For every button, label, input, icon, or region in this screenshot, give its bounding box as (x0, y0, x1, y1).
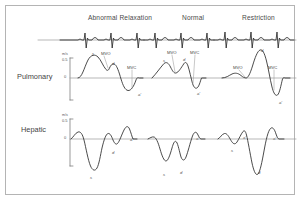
figure-root: Abnormal Relaxation Normal Restriction P… (0, 0, 302, 202)
label-pul-n-ap: a' (197, 91, 200, 96)
hepatic-axis-tick-zero: 0 (64, 135, 66, 140)
label-pul-r-mvo: MVO (233, 65, 243, 70)
label-pul-ar-mvc: MVC (127, 65, 136, 70)
pulmonary-axis-unit: m/s (62, 52, 68, 56)
label-pul-ar-mvo: MVO (101, 51, 111, 56)
hepatic-axis-tick-top: 0.5 (62, 118, 68, 123)
label-hep-ar-s: s (90, 175, 92, 180)
label-hep-n-s: s (163, 172, 165, 177)
label-hep-r-d: d (258, 170, 260, 175)
label-hep-r-ap1: a' (243, 135, 246, 140)
label-hep-ar-d: d (112, 150, 114, 155)
label-pul-r-ap: a' (279, 100, 282, 105)
pulmonary-axis-tick-zero: 0 (64, 74, 66, 79)
label-pul-n-d: d (183, 57, 185, 62)
label-hep-r-s: s (231, 148, 233, 153)
label-pul-n-mvo: MVO (167, 50, 177, 55)
label-pul-r-d: d (261, 48, 263, 53)
label-pul-n-mvc: MVC (190, 50, 199, 55)
column-header-normal: Normal (182, 14, 204, 21)
label-pul-r-mvc: MVC (268, 65, 277, 70)
row-label-pulmonary: Pulmonary (17, 72, 52, 81)
label-hep-ar-ap: a' (130, 137, 133, 142)
label-pul-n-s: s (163, 58, 165, 63)
label-pul-ar-s: s (92, 51, 94, 56)
label-hep-n-ap: a' (196, 136, 199, 141)
label-hep-r-ap2: a' (273, 136, 276, 141)
label-pul-ar-d: d (112, 61, 114, 66)
column-header-abnormal-relaxation: Abnormal Relaxation (88, 14, 152, 21)
label-pul-ar-ap: a' (138, 92, 141, 97)
column-header-restriction: Restriction (242, 14, 275, 21)
figure-border (5, 5, 295, 195)
row-label-hepatic: Hepatic (21, 125, 46, 134)
hepatic-axis-unit: m/s (62, 113, 68, 117)
label-hep-n-d: d (180, 170, 182, 175)
pulmonary-axis-tick-top: 0.5 (62, 57, 68, 62)
